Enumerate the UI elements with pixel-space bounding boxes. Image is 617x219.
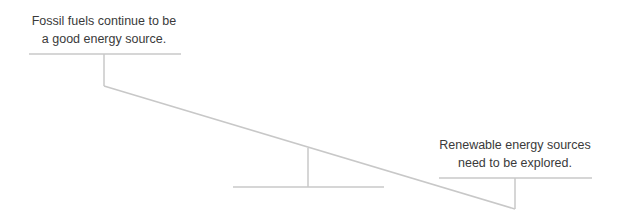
left-statement-label: Fossil fuels continue to be a good energ… xyxy=(4,12,204,48)
left-statement-line-2: a good energy source. xyxy=(4,30,204,48)
right-statement-label: Renewable energy sources need to be expl… xyxy=(415,136,615,172)
right-statement-line-1: Renewable energy sources xyxy=(415,136,615,154)
left-statement-line-1: Fossil fuels continue to be xyxy=(4,12,204,30)
right-statement-line-2: need to be explored. xyxy=(415,154,615,172)
seesaw-diagram: Fossil fuels continue to be a good energ… xyxy=(0,0,617,219)
